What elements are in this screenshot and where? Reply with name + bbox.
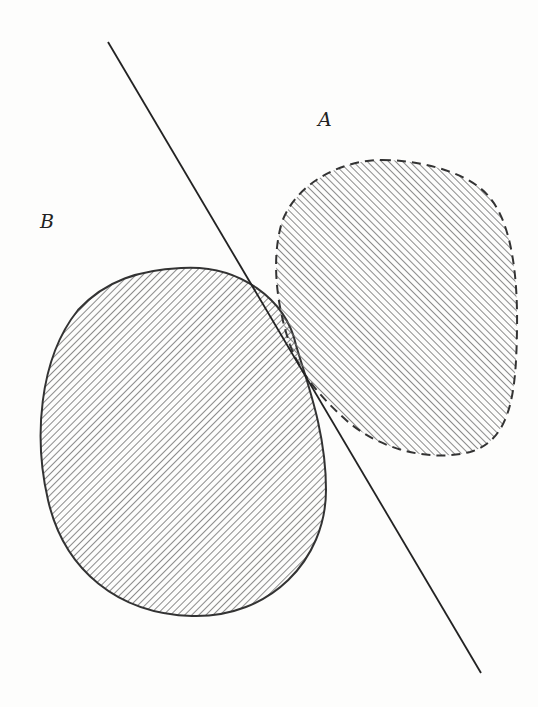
separating-hyperplane-diagram [0,0,538,707]
set-b-label: B [40,212,54,231]
set-a-label: A [318,110,332,129]
